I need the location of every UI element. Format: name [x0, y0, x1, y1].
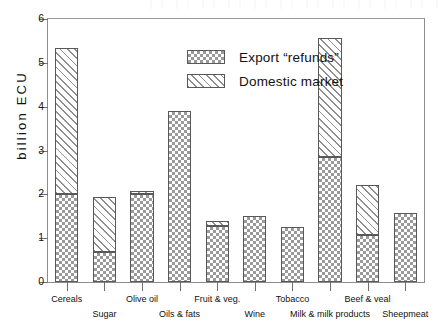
y-tick-label: 5 — [38, 56, 44, 69]
legend-label: Export “refunds” — [239, 50, 339, 65]
x-axis-label: Fruit & veg. — [194, 294, 240, 305]
x-tick-mark — [104, 282, 105, 291]
scan-artifact — [150, 0, 440, 9]
x-axis-label: Olive oil — [126, 294, 158, 305]
y-tick-label: 0 — [38, 275, 44, 288]
x-tick-mark — [142, 282, 143, 291]
legend-item: Domestic market — [187, 73, 343, 89]
x-tick-mark — [217, 282, 218, 291]
x-axis-label: Sheepmeat — [382, 309, 428, 320]
x-tick-mark — [255, 282, 256, 291]
bar-segment-export-refunds — [318, 157, 341, 282]
bar-segment-export-refunds — [168, 111, 191, 282]
x-tick-mark — [330, 282, 331, 291]
bar-segment-export-refunds — [55, 194, 78, 282]
y-tick-label: 2 — [38, 187, 44, 200]
legend-swatch-domestic-market — [187, 74, 225, 88]
bar-segment-export-refunds — [281, 227, 304, 282]
x-axis-label: Sugar — [92, 309, 116, 320]
y-tick-label: 1 — [38, 231, 44, 244]
bar-segment-export-refunds — [394, 213, 417, 282]
x-axis-label: Milk & milk products — [290, 309, 370, 320]
plot-area: 0123456 Export “refunds”Domestic market — [47, 18, 425, 283]
bar-segment-domestic-market — [130, 191, 153, 195]
legend-swatch-export-refunds — [187, 50, 225, 64]
bar-segment-export-refunds — [93, 252, 116, 282]
x-axis-label: Oils & fats — [159, 309, 200, 320]
bar-sheepmeat — [394, 213, 417, 282]
x-tick-mark — [405, 282, 406, 291]
legend-label: Domestic market — [239, 74, 343, 89]
x-tick-mark — [67, 282, 68, 291]
bar-segment-domestic-market — [55, 48, 78, 195]
x-axis-label: Beef & veal — [345, 294, 391, 305]
bar-segment-export-refunds — [130, 194, 153, 282]
bar-cereals — [55, 48, 78, 283]
bar-segment-domestic-market — [93, 197, 116, 253]
bar-segment-export-refunds — [243, 216, 266, 282]
legend-item: Export “refunds” — [187, 49, 343, 65]
bar-sugar — [93, 197, 116, 282]
bar-segment-domestic-market — [356, 185, 379, 235]
y-tick-label: 4 — [38, 100, 44, 113]
y-axis-title: billion ECU — [14, 31, 29, 201]
bar-beef-veal — [356, 185, 379, 282]
bar-fruit-veg — [206, 221, 229, 282]
bar-olive-oil — [130, 191, 153, 282]
bar-segment-export-refunds — [356, 235, 379, 282]
x-tick-mark — [368, 282, 369, 291]
bar-tobacco — [281, 227, 304, 282]
bar-segment-export-refunds — [206, 226, 229, 282]
chart-figure: billion ECU 0123456 Export “refunds”Dome… — [0, 0, 440, 325]
y-tick-label: 6 — [38, 12, 44, 25]
x-axis-label: Cereals — [51, 294, 82, 305]
bar-segment-domestic-market — [206, 221, 229, 226]
bar-wine — [243, 216, 266, 282]
x-axis-label: Wine — [245, 309, 266, 320]
x-tick-mark — [292, 282, 293, 291]
y-tick-label: 3 — [38, 144, 44, 157]
chart-legend: Export “refunds”Domestic market — [187, 49, 343, 97]
x-axis-label: Tobacco — [276, 294, 310, 305]
bar-oils-fats — [168, 111, 191, 282]
x-tick-mark — [180, 282, 181, 291]
